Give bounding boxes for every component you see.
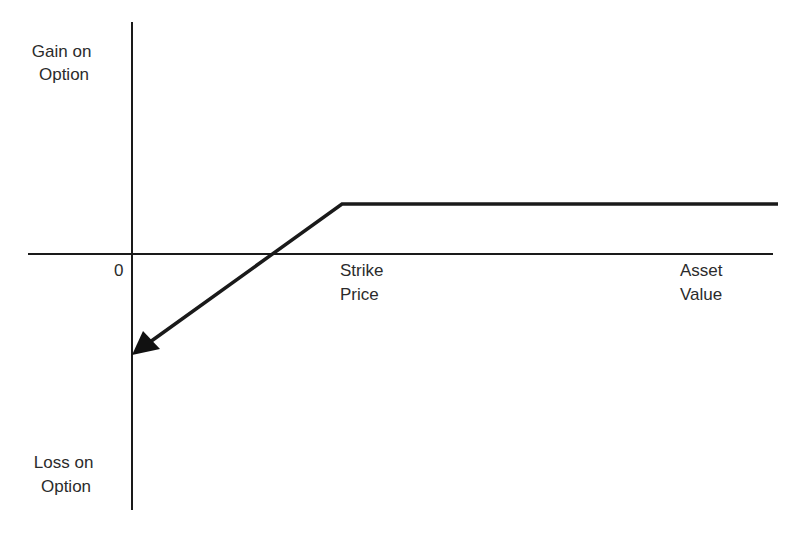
strike-price-label: Strike Price — [340, 261, 388, 304]
gain-label: Gain on Option — [32, 42, 96, 84]
origin-label: 0 — [114, 261, 123, 280]
payoff-diagram: Gain on Option Loss on Option 0 Strike P… — [0, 0, 803, 544]
asset-value-label: Asset Value — [680, 261, 727, 304]
loss-label: Loss on Option — [34, 453, 98, 496]
arrowhead-icon — [132, 331, 160, 355]
